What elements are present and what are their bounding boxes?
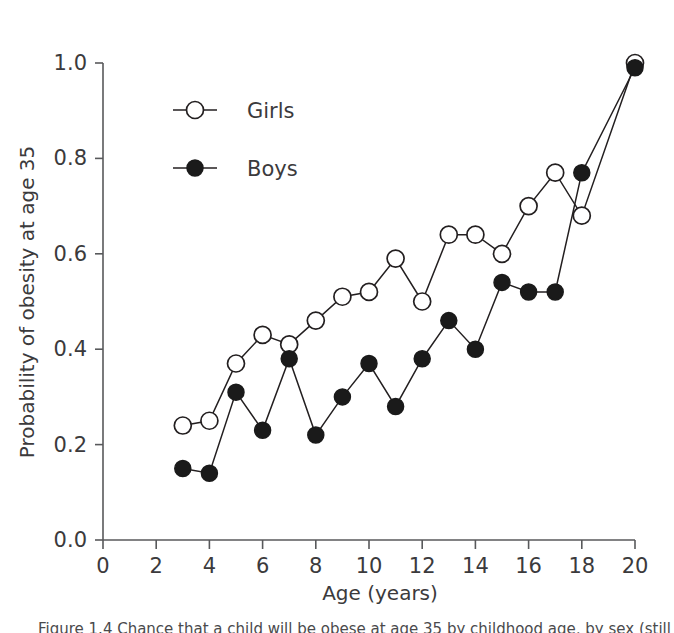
data-point-boys	[521, 284, 537, 300]
data-point-boys	[201, 465, 217, 481]
y-axis-tick-label: 0.6	[54, 242, 87, 266]
data-point-boys	[388, 398, 404, 414]
legend-label-boys: Boys	[247, 157, 298, 181]
y-axis-tick-label: 0.0	[54, 528, 87, 552]
data-point-boys	[334, 389, 350, 405]
y-axis-label: Probability of obesity at age 35	[15, 146, 39, 458]
data-point-boys	[574, 165, 590, 181]
chart-background	[0, 0, 674, 633]
figure-caption: Figure 1.4 Chance that a child will be o…	[0, 622, 674, 633]
legend-marker-boys	[187, 160, 203, 176]
data-point-boys	[547, 284, 563, 300]
data-point-boys	[175, 460, 191, 476]
data-point-boys	[467, 341, 483, 357]
x-axis-tick-label: 8	[309, 554, 322, 578]
data-point-boys	[308, 427, 324, 443]
y-axis-tick-label: 0.8	[54, 146, 87, 170]
data-point-boys	[228, 384, 244, 400]
x-axis-tick-label: 4	[203, 554, 216, 578]
data-point-girls	[334, 288, 351, 305]
data-point-girls	[174, 417, 191, 434]
data-point-girls	[361, 283, 378, 300]
x-axis-tick-label: 12	[409, 554, 436, 578]
data-point-girls	[201, 412, 218, 429]
y-axis-tick-label: 0.4	[54, 337, 87, 361]
chart-figure: 0.00.20.40.60.81.0 02468101214161820 Gir…	[0, 0, 674, 633]
x-axis-label: Age (years)	[322, 581, 438, 605]
data-point-boys	[627, 60, 643, 76]
data-point-girls	[467, 226, 484, 243]
legend-marker-girls	[187, 102, 204, 119]
x-axis-tick-label: 18	[568, 554, 595, 578]
data-point-girls	[254, 326, 271, 343]
data-point-girls	[547, 164, 564, 181]
data-point-girls	[414, 293, 431, 310]
x-axis-tick-label: 10	[356, 554, 383, 578]
data-point-girls	[440, 226, 457, 243]
data-point-girls	[307, 312, 324, 329]
figure-caption-text: Figure 1.4 Chance that a child will be o…	[0, 622, 674, 633]
x-axis-tick-label: 20	[622, 554, 649, 578]
data-point-boys	[414, 351, 430, 367]
y-axis-tick-label: 0.2	[54, 433, 87, 457]
y-axis-tick-label: 1.0	[54, 51, 87, 75]
x-axis-tick-label: 0	[96, 554, 109, 578]
data-point-boys	[255, 422, 271, 438]
data-point-boys	[281, 351, 297, 367]
data-point-girls	[520, 198, 537, 215]
data-point-boys	[441, 313, 457, 329]
data-point-boys	[494, 274, 510, 290]
x-axis-tick-label: 16	[515, 554, 542, 578]
probability-of-obesity-line-chart: 0.00.20.40.60.81.0 02468101214161820 Gir…	[0, 0, 674, 633]
data-point-girls	[494, 245, 511, 262]
x-axis-tick-label: 14	[462, 554, 489, 578]
x-axis-tick-label: 2	[150, 554, 163, 578]
x-axis-tick-label: 6	[256, 554, 269, 578]
data-point-girls	[387, 250, 404, 267]
data-point-girls	[228, 355, 245, 372]
data-point-girls	[573, 207, 590, 224]
data-point-boys	[361, 356, 377, 372]
legend-label-girls: Girls	[247, 99, 295, 123]
